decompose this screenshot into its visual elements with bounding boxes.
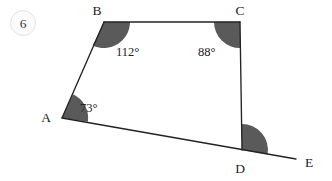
geometry-figure: 6 A B C D E 1 bbox=[0, 0, 332, 181]
angle-label-c: 88° bbox=[198, 45, 216, 59]
vertex-label-a: A bbox=[41, 110, 51, 125]
vertex-label-b: B bbox=[92, 3, 101, 18]
angle-wedges bbox=[62, 22, 268, 154]
edge-cd bbox=[240, 22, 242, 150]
question-number-text: 6 bbox=[20, 16, 27, 31]
vertex-label-d: D bbox=[235, 161, 245, 176]
diagram-page: 6 A B C D E 1 bbox=[0, 0, 332, 181]
angle-label-b: 112° bbox=[116, 45, 139, 59]
vertex-labels: A B C D E bbox=[41, 3, 313, 176]
question-number-badge: 6 bbox=[11, 11, 36, 36]
vertex-label-e: E bbox=[305, 155, 313, 170]
angle-label-a: 73° bbox=[80, 101, 98, 115]
angle-wedge-c bbox=[214, 22, 240, 48]
vertex-label-c: C bbox=[235, 3, 244, 18]
angle-labels: 112° 88° 73° bbox=[80, 45, 216, 115]
